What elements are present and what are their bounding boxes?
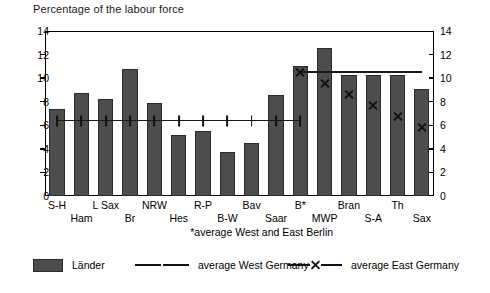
bar-ham — [74, 93, 89, 196]
x-tick-label-saar: Saar — [265, 212, 287, 224]
chart-legend: Länder average West Germany average East… — [0, 255, 490, 275]
average-line-east-germany — [300, 71, 422, 73]
vertical-bar-marker-icon-rp — [202, 115, 204, 126]
x-tick-label-ham: Ham — [70, 212, 92, 224]
bar-sa — [366, 75, 381, 196]
x-tick-label-lsax: L Sax — [93, 199, 119, 211]
x-tick-label-b: B* — [295, 199, 306, 211]
y-tick-label-right-8: 8 — [440, 97, 462, 107]
x-tick-label-sa: S-A — [364, 212, 382, 224]
x-tick-label-sh: S-H — [48, 199, 66, 211]
x-tick-label-bav: Bav — [243, 199, 261, 211]
vertical-bar-marker-icon-br — [129, 115, 131, 126]
vertical-bar-marker-icon-sh — [56, 115, 58, 126]
bar-th — [390, 75, 405, 196]
vertical-bar-marker-icon-ham — [81, 115, 83, 126]
bar-b — [293, 66, 308, 196]
legend-item-average-west: average West Germany — [135, 255, 309, 275]
vertical-bar-marker-icon-bav — [251, 115, 253, 126]
chart-root: Percentage of the labour force 024681012… — [0, 0, 490, 293]
x-tick-label-bran: Bran — [338, 199, 360, 211]
vertical-bar-marker-icon — [161, 260, 163, 271]
legend-item-average-east: average East Germany — [288, 255, 459, 275]
legend-line-vbar-icon — [135, 258, 189, 272]
bar-br — [122, 69, 137, 196]
bar-rp — [195, 131, 210, 196]
x-marker-icon-b — [295, 67, 306, 78]
x-marker-icon-sax — [416, 122, 427, 133]
bar-series-lander — [45, 31, 434, 196]
y-tick-label-right-6: 6 — [440, 120, 462, 130]
legend-label-lander: Länder — [72, 259, 105, 271]
y-tick-label-right-10: 10 — [440, 73, 462, 83]
bar-hes — [171, 135, 186, 196]
x-tick-label-nrw: NRW — [142, 199, 167, 211]
x-tick-label-bw: B-W — [217, 212, 237, 224]
x-tick-label-br: Br — [125, 212, 136, 224]
x-marker-icon-sa — [368, 100, 379, 111]
chart-title: Percentage of the labour force — [33, 3, 184, 15]
vertical-bar-marker-icon-lsax — [105, 115, 107, 126]
bar-saar — [268, 95, 283, 196]
vertical-bar-marker-icon-hes — [178, 115, 180, 126]
bar-bw — [220, 152, 235, 196]
y-tick-label-right-4: 4 — [440, 144, 462, 154]
vertical-bar-marker-icon-b — [299, 115, 301, 126]
y-tick-label-right-0: 0 — [440, 191, 462, 201]
x-marker-icon-bran — [343, 89, 354, 100]
bar-bav — [244, 143, 259, 196]
x-marker-icon-mwp — [319, 78, 330, 89]
vertical-bar-marker-icon-bw — [226, 115, 228, 126]
bar-mwp — [317, 48, 332, 196]
vertical-bar-marker-icon-saar — [275, 115, 277, 126]
chart-footnote: *average West and East Berlin — [190, 226, 333, 238]
y-tick-label-right-2: 2 — [440, 167, 462, 177]
legend-line-x-icon — [288, 258, 342, 272]
bar-sax — [414, 89, 429, 196]
legend-label-average-east: average East Germany — [351, 259, 459, 271]
x-tick-label-rp: R-P — [194, 199, 212, 211]
x-tick-label-hes: Hes — [169, 212, 188, 224]
y-tick-label-right-14: 14 — [440, 26, 462, 36]
x-tick-label-th: Th — [391, 199, 403, 211]
x-tick-label-mwp: MWP — [312, 212, 338, 224]
x-marker-icon-th — [392, 111, 403, 122]
y-tick-label-right-12: 12 — [440, 50, 462, 60]
legend-item-lander: Länder — [33, 255, 105, 275]
x-marker-icon — [310, 260, 321, 271]
x-tick-label-sax: Sax — [413, 212, 431, 224]
legend-swatch-icon — [33, 259, 63, 272]
bar-lsax — [98, 99, 113, 196]
vertical-bar-marker-icon-nrw — [154, 115, 156, 126]
